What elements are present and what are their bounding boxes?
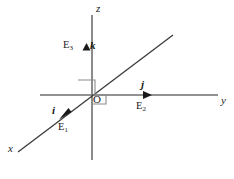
k-vector-label: k bbox=[90, 40, 96, 51]
y-axis-label: y bbox=[221, 95, 226, 106]
e1-subscript: 1 bbox=[64, 126, 68, 134]
e3-basis-label: E3 bbox=[63, 40, 73, 51]
j-vector-label: j bbox=[141, 79, 144, 90]
origin-label: O bbox=[93, 94, 101, 105]
coordinate-system-figure: z y x k E3 j E2 i E1 O bbox=[0, 0, 234, 179]
e1-basis-label: E1 bbox=[58, 122, 68, 133]
figure-canvas bbox=[0, 0, 234, 179]
e3-subscript: 3 bbox=[69, 44, 73, 52]
i-vector-label: i bbox=[52, 105, 55, 116]
z-axis-label: z bbox=[96, 3, 100, 14]
e2-basis-label: E2 bbox=[136, 101, 146, 112]
j-vector-arrowhead bbox=[143, 91, 152, 99]
x-axis-label: x bbox=[8, 143, 13, 154]
e2-subscript: 2 bbox=[142, 105, 146, 113]
